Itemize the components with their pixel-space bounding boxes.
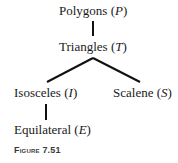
node-name: Scalene xyxy=(113,85,153,100)
node-symbol: P xyxy=(115,3,123,18)
node-scalene: Scalene (S) xyxy=(113,86,172,100)
node-name: Isosceles xyxy=(14,85,61,100)
node-name: Polygons xyxy=(59,3,107,18)
edge-triangles-isosceles xyxy=(47,58,93,82)
node-name: Equilateral xyxy=(14,122,71,137)
node-symbol: E xyxy=(79,122,87,137)
node-name: Triangles xyxy=(59,39,108,54)
node-polygons: Polygons (P) xyxy=(59,4,127,18)
node-equilateral: Equilateral (E) xyxy=(14,123,91,137)
edge-triangles-scalene xyxy=(93,58,140,82)
tree-edges xyxy=(0,0,178,163)
node-triangles: Triangles (T) xyxy=(59,40,127,54)
figure-caption: Figure 7.51 xyxy=(14,145,61,155)
node-isosceles: Isosceles (I) xyxy=(14,86,77,100)
